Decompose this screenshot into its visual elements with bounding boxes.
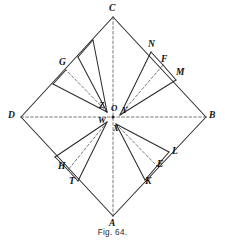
ray-from-W-10 [55, 122, 107, 157]
ray-from-W-12 [78, 122, 107, 181]
chord-1 [53, 70, 66, 84]
point-label-H: H [58, 162, 65, 172]
vertex-label-C: C [109, 4, 115, 14]
point-label-N: N [148, 40, 155, 50]
point-label-K: K [145, 177, 151, 187]
centre-label-Z: Z [99, 101, 104, 110]
centre-label-W: W [98, 116, 106, 125]
point-label-T: T [69, 177, 75, 187]
figure-64-container: CBADOZYWXGNFMLEKHT Fig. 64. [0, 0, 225, 243]
vertex-label-D: D [8, 111, 15, 121]
point-label-M: M [176, 68, 184, 78]
point-label-L: L [172, 147, 178, 157]
point-label-G: G [59, 58, 66, 68]
ray-from-X-9 [116, 124, 145, 180]
centre-label-X: X [113, 124, 119, 133]
point-label-E: E [157, 160, 163, 170]
centre-point-dot [112, 116, 115, 119]
vertex-label-B: B [209, 111, 215, 121]
ray-from-X-7 [116, 124, 169, 152]
geometric-diagram-svg [0, 0, 225, 243]
centre-label-Y: Y [122, 106, 127, 115]
centre-dot-layer [112, 116, 115, 119]
point-label-F: F [161, 55, 167, 65]
figure-caption: Fig. 64. [0, 228, 225, 237]
ray-from-X-8 [116, 124, 157, 166]
centre-label-O: O [111, 104, 117, 113]
chord-0 [78, 40, 93, 57]
